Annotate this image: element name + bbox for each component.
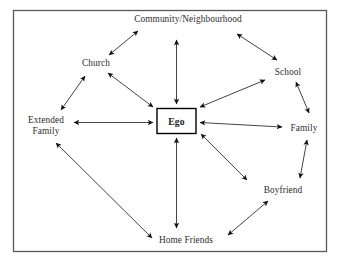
node-label-school: School <box>275 67 301 78</box>
diagram-canvas <box>0 0 344 271</box>
ego-network-diagram: Ego Community/Neighbourhood Church Schoo… <box>0 0 344 271</box>
node-label-family: Family <box>291 123 318 134</box>
ego-node-label: Ego <box>168 116 185 127</box>
node-label-home-friends: Home Friends <box>159 235 213 246</box>
node-label-boyfriend: Boyfriend <box>264 185 303 196</box>
node-label-community: Community/Neighbourhood <box>134 14 242 25</box>
node-label-church: Church <box>82 58 110 69</box>
node-label-extended-family: Extended Family <box>28 115 64 136</box>
